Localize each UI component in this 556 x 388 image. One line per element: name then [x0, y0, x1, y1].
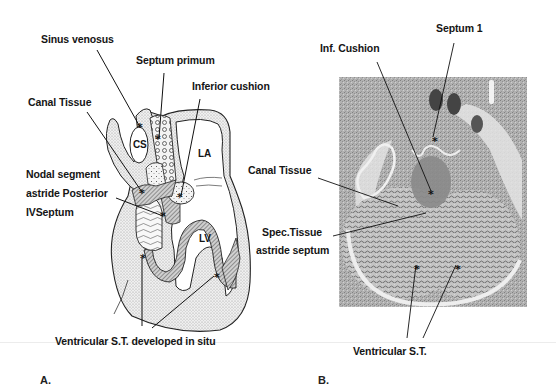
label-ventricular-st-a: Ventricular S.T. developed in situ [55, 335, 216, 347]
label-inf-cushion: Inf. Cushion [320, 42, 379, 54]
label-nodal-segment-2: astride Posterior [26, 187, 108, 199]
panel-letter-b: B. [318, 374, 329, 386]
label-nodal-segment-3: IVSeptum [26, 206, 74, 218]
svg-text:*: * [160, 210, 166, 223]
label-inferior-cushion: Inferior cushion [192, 80, 270, 92]
label-nodal-segment-1: Nodal segment [26, 168, 100, 180]
svg-text:*: * [155, 133, 161, 146]
panel-letter-a: A. [40, 374, 51, 386]
label-septum-1: Septum 1 [436, 22, 482, 34]
svg-text:*: * [214, 271, 220, 284]
label-spec-tissue-2: astride septum [256, 244, 329, 256]
label-spec-tissue-1: Spec.Tissue [262, 226, 322, 238]
chamber-lv: LV [199, 233, 211, 244]
label-canal-tissue-b: Canal Tissue [248, 164, 311, 176]
label-ventricular-st-b: Ventricular S.T. [353, 345, 427, 357]
label-sinus-venosus: Sinus venosus [41, 33, 114, 45]
svg-text:*: * [140, 252, 146, 265]
label-canal-tissue-a: Canal Tissue [28, 96, 91, 108]
svg-text:*: * [455, 263, 461, 276]
chamber-la: LA [198, 148, 211, 159]
label-septum-primum: Septum primum [136, 54, 215, 66]
chamber-cs: CS [133, 139, 147, 150]
